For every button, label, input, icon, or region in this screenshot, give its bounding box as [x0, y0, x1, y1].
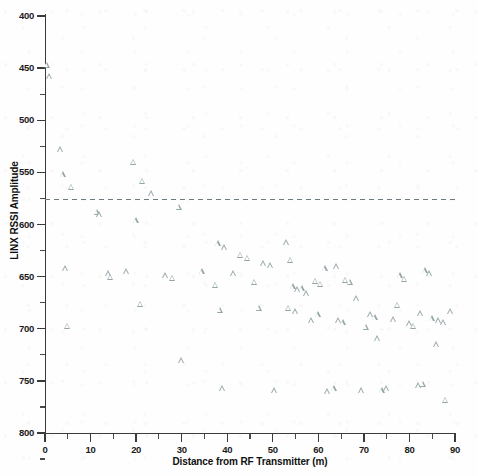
data-point: [285, 305, 291, 311]
data-point: [68, 184, 74, 190]
data-point: [162, 272, 168, 278]
data-point: [394, 302, 400, 308]
x-tick-label-0: 0: [30, 444, 60, 455]
data-point: [447, 308, 453, 314]
data-point: [308, 317, 314, 323]
data-point: [64, 323, 70, 329]
data-point: [324, 388, 330, 394]
x-tick-label-30: 30: [167, 444, 197, 455]
x-tick-minor: [249, 434, 250, 439]
x-tick-minor: [386, 434, 387, 439]
y-tick-label-750: 450: [0, 62, 34, 73]
data-point: [372, 314, 378, 320]
x-tick-label-40: 40: [212, 444, 242, 455]
data-point: [60, 171, 66, 177]
data-point: [283, 239, 289, 245]
data-point: [199, 268, 205, 274]
data-point: [340, 319, 346, 325]
data-point: [267, 262, 273, 268]
x-tick-10: [90, 434, 91, 442]
data-point: [96, 211, 102, 217]
data-point: [363, 324, 369, 330]
data-point: [410, 323, 416, 329]
x-tick-20: [135, 434, 136, 442]
x-tick-minor: [295, 434, 296, 439]
data-point: [383, 385, 389, 391]
y-axis-title: LINX RSSI Amplitude: [9, 111, 20, 311]
data-point: [123, 268, 129, 274]
plot-area: [45, 16, 455, 433]
x-tick-minor: [113, 434, 114, 439]
data-point: [251, 279, 257, 285]
data-point: [230, 270, 236, 276]
x-tick-50: [272, 434, 273, 442]
y-tick-700: [37, 120, 45, 121]
data-point: [212, 282, 218, 288]
data-point: [133, 217, 139, 223]
x-tick-label-60: 60: [303, 444, 333, 455]
data-point: [221, 244, 227, 250]
data-point: [303, 290, 309, 296]
x-tick-minor: [67, 434, 68, 439]
data-point: [260, 260, 266, 266]
y-tick-label-800: 400: [0, 10, 34, 21]
data-point: [287, 257, 293, 263]
data-point: [178, 357, 184, 363]
data-point: [107, 274, 113, 280]
data-point: [358, 387, 364, 393]
y-tick-650: [37, 172, 45, 173]
data-point: [440, 319, 446, 325]
data-point: [442, 397, 448, 403]
data-point: [390, 316, 396, 322]
data-point: [331, 385, 337, 391]
reference-line: [45, 199, 455, 200]
data-point: [374, 335, 380, 341]
data-point: [62, 265, 68, 271]
data-point: [237, 252, 243, 258]
data-point: [292, 308, 298, 314]
x-tick-70: [363, 434, 364, 442]
data-point: [169, 275, 175, 281]
data-point: [219, 385, 225, 391]
x-tick-label-50: 50: [258, 444, 288, 455]
data-point: [353, 295, 359, 301]
data-point: [217, 307, 223, 313]
x-tick-label-80: 80: [394, 444, 424, 455]
scatter-chart: 800750700650600550500450400 010203040506…: [0, 0, 478, 476]
data-point: [130, 159, 136, 165]
x-tick-minor: [158, 434, 159, 439]
data-point: [426, 270, 432, 276]
data-point: [315, 311, 321, 317]
data-point: [401, 276, 407, 282]
x-tick-label-10: 10: [76, 444, 106, 455]
x-axis-title: Distance from RF Transmitter (m): [45, 456, 455, 467]
y-tick-550: [37, 276, 45, 277]
y-tick-label-500: 700: [0, 323, 34, 334]
x-tick-label-90: 90: [440, 444, 470, 455]
data-point: [420, 381, 426, 387]
x-tick-minor: [432, 434, 433, 439]
data-point: [176, 204, 182, 210]
data-point: [46, 73, 52, 79]
x-tick-0: [44, 434, 45, 442]
data-point: [139, 178, 145, 184]
x-tick-60: [318, 434, 319, 442]
y-tick-800: [37, 15, 45, 16]
x-tick-label-70: 70: [349, 444, 379, 455]
data-point: [322, 265, 328, 271]
data-point: [333, 263, 339, 269]
data-point: [317, 281, 323, 287]
x-tick-40: [227, 434, 228, 442]
data-point: [57, 146, 63, 152]
data-point: [271, 387, 277, 393]
x-tick-minor: [341, 434, 342, 439]
y-tick-label-450: 750: [0, 375, 34, 386]
y-tick-500: [37, 328, 45, 329]
data-point: [137, 301, 143, 307]
y-tick-450: [37, 380, 45, 381]
data-point: [429, 315, 435, 321]
x-tick-30: [181, 434, 182, 442]
data-point: [148, 190, 154, 196]
data-point: [417, 310, 423, 316]
data-point: [256, 305, 262, 311]
